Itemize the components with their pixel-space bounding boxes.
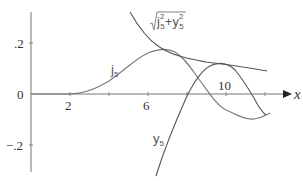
series-y5: [156, 63, 266, 176]
x-axis-label: x: [293, 86, 301, 102]
label-j5: j5: [110, 62, 119, 79]
y-tick-0: 0: [17, 87, 24, 102]
x-tick-10: 10: [218, 78, 231, 93]
x-axis-arrow-icon: [283, 90, 292, 98]
x-tick-6: 6: [143, 98, 150, 113]
series-envelope: [130, 12, 267, 71]
svg-text:j25+y25: j25+y25: [156, 12, 184, 31]
chart: 2 6 10 x .2 0 −.2 j5 y5 j25+y25: [0, 0, 303, 181]
label-y5: y5: [153, 131, 165, 148]
y-tick-neg0.2: −.2: [6, 138, 23, 153]
y-tick-0.2: .2: [14, 36, 24, 51]
label-envelope: j25+y25: [150, 12, 186, 31]
x-tick-2: 2: [65, 98, 72, 113]
